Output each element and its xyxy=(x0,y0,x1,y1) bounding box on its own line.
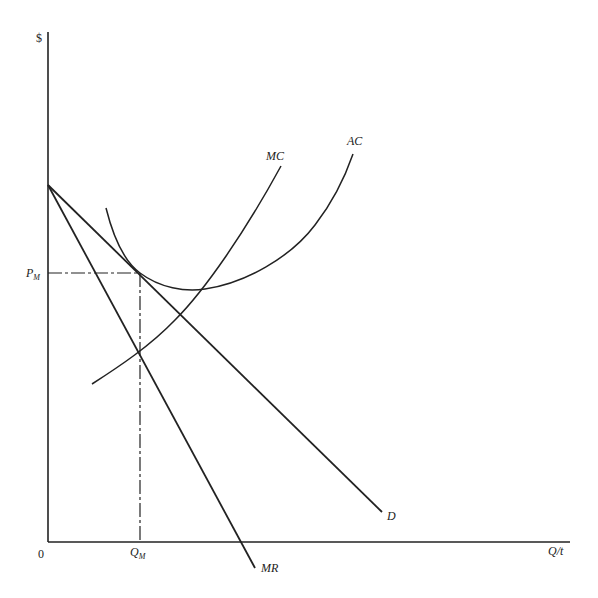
pm-label-sub: M xyxy=(32,273,41,282)
pm-label: PM xyxy=(25,266,41,282)
average-cost-curve xyxy=(106,154,353,290)
marginal-revenue-curve xyxy=(48,185,255,568)
qm-label: QM xyxy=(130,545,147,561)
ac-label: AC xyxy=(346,134,363,148)
y-axis-label: $ xyxy=(36,31,42,45)
qm-label-sub: M xyxy=(138,552,147,561)
marginal-cost-curve xyxy=(92,166,281,384)
qm-label-main: Q xyxy=(130,545,139,559)
demand-label: D xyxy=(386,509,396,523)
x-axis-label: Q/t xyxy=(548,544,564,558)
mr-label: MR xyxy=(260,561,279,575)
monopoly-diagram: $ 0 Q/t MC AC D MR PM QM xyxy=(0,0,598,598)
mc-label: MC xyxy=(265,149,285,163)
demand-curve xyxy=(48,185,382,512)
origin-label: 0 xyxy=(38,547,44,561)
